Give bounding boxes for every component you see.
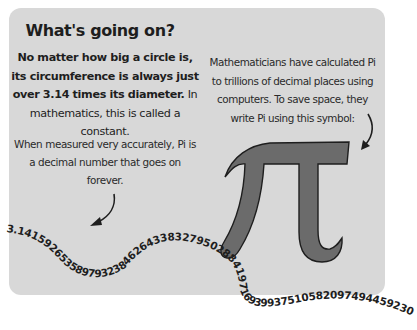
curved-arrow-right-icon bbox=[361, 114, 372, 150]
curved-arrow-left-icon bbox=[90, 194, 114, 226]
pi-symbol-icon bbox=[221, 142, 349, 262]
pi-digits: 3.14159265358979323846264338327950288419… bbox=[6, 222, 416, 317]
illustration-layer: 3.14159265358979323846264338327950288419… bbox=[0, 0, 417, 330]
pi-digits-text: 3.14159265358979323846264338327950288419… bbox=[6, 222, 416, 317]
